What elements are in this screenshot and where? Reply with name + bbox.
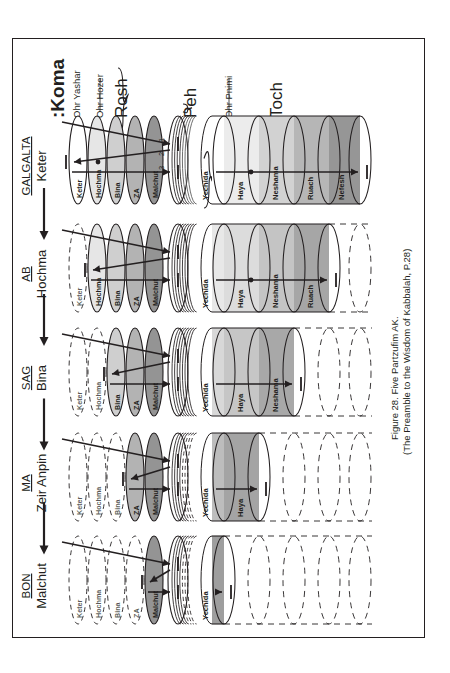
toch-partition-empty — [318, 328, 340, 416]
caption-group: Figure 28. Five Partzufim AK.(The Preamb… — [389, 249, 412, 455]
toch-group: YechidaHayaNeshamaRuachNefesh — [201, 116, 371, 204]
figure-canvas: :KomaOhr YasharOhr HozerRoshPehOhr Pnimi… — [0, 0, 450, 673]
toch-band-yechida — [212, 224, 224, 312]
rosh-label-malchut: Malchut — [151, 278, 160, 306]
rosh-label-bina: Bina — [113, 498, 122, 515]
rosh-label-bina: Bina — [113, 601, 122, 618]
caption-line-2: (The Preamble to the Wisdom of Kabbalah,… — [401, 249, 412, 455]
toch-label-yechida: Yechida — [201, 279, 210, 308]
toch-label-haya: Haya — [236, 289, 245, 308]
toch-label-neshama: Neshama — [271, 377, 280, 412]
flow-arrow-head-0 — [40, 231, 49, 240]
rosh-label-hochma: Hochma — [94, 277, 103, 306]
toch-partition-empty — [283, 536, 305, 624]
toch-label-yechida: Yechida — [201, 383, 210, 412]
toch-label-yechida: Yechida — [201, 488, 210, 517]
flow-arrow-head-3 — [40, 546, 49, 555]
rosh-label-keter: Keter — [75, 496, 84, 515]
label-peh: Peh — [181, 88, 200, 118]
partzufim-diagram: :KomaOhr YasharOhr HozerRoshPehOhr Pnimi… — [0, 0, 450, 673]
toch-partition-empty — [349, 536, 371, 624]
rosh-label-malchut: Malchut — [151, 590, 160, 618]
rosh-label-malchut: Malchut — [151, 170, 160, 198]
toch-partition-empty — [318, 536, 340, 624]
toch-label-nefesh: Nefesh — [337, 174, 346, 200]
toch-band-yechida — [212, 116, 224, 204]
toch-label-haya: Haya — [236, 498, 245, 517]
rosh-label-hochma: Hochma — [94, 589, 103, 618]
label-rosh: Rosh — [112, 78, 131, 118]
flow-arrow-head-1 — [40, 337, 49, 346]
toch-band-yechida — [212, 433, 224, 521]
partzuf-code-galgalta: GALGALTA — [20, 136, 32, 195]
partzuf-row-sag: KeterHochmaBinaZAMalchutYechidaHayaNesha… — [62, 328, 372, 416]
toch-partition-empty — [283, 433, 305, 521]
rosh-label-za: ZA — [132, 608, 141, 618]
label-ohr-yashar: Ohr Yashar — [71, 70, 82, 118]
partzuf-code-bon: BON — [20, 574, 32, 599]
ohr-pnimi-node — [249, 170, 254, 175]
toch-partition-empty — [248, 536, 270, 624]
peh-group — [168, 536, 197, 624]
rosh-label-keter: Keter — [75, 287, 84, 306]
toch-partition-empty — [349, 328, 371, 416]
rosh-label-za: ZA — [132, 296, 141, 306]
toch-label-haya: Haya — [236, 393, 245, 412]
toch-label-neshama: Neshama — [271, 273, 280, 308]
arrow-number-3: 3 — [157, 166, 166, 170]
label-toch: Toch — [267, 82, 286, 118]
rosh-label-za: ZA — [132, 505, 141, 515]
toch-label-yechida: Yechida — [201, 171, 210, 200]
rosh-label-hochma: Hochma — [94, 381, 103, 410]
toch-label-yechida: Yechida — [201, 591, 210, 620]
partzuf-code-ma: MA — [20, 474, 32, 492]
peh-line-6 — [188, 536, 197, 624]
toch-partition-empty — [349, 433, 371, 521]
label-koma: :Koma — [47, 58, 68, 118]
toch-group: YechidaHayaNeshama — [201, 328, 372, 416]
toch-label-ruach: Ruach — [306, 176, 315, 200]
label-ohr-hozer: Ohr Hozer — [94, 74, 105, 118]
peh-group — [168, 328, 197, 416]
ohr-pnimi-node — [249, 278, 254, 283]
toch-band-yechida — [212, 536, 224, 624]
partzuf-name-ab: Hochma — [34, 249, 49, 298]
toch-partition-empty — [349, 224, 371, 312]
rosh-label-hochma: Hochma — [94, 486, 103, 515]
toch-label-neshama: Neshama — [271, 165, 280, 200]
rosh-label-hochma: Hochma — [94, 169, 103, 198]
peh-line-6 — [188, 328, 197, 416]
rosh-label-za: ZA — [132, 188, 141, 198]
partzuf-name-bon: Malchut — [34, 563, 49, 609]
flow-arrow-head-2 — [40, 442, 49, 451]
partzuf-row-ab: KeterHochmaBinaZAMalchutYechidaHayaNesha… — [62, 224, 372, 312]
arrow-number-2: 2 — [157, 152, 166, 156]
rosh-label-keter: Keter — [75, 179, 84, 198]
toch-group: YechidaHaya — [201, 433, 372, 521]
partzuf-code-ab: AB — [20, 266, 32, 282]
arrow-number-1: 1 — [157, 138, 166, 142]
partzuf-name-galgalta: Keter — [34, 150, 49, 182]
peh-group — [168, 116, 197, 204]
toch-label-ruach: Ruach — [306, 284, 315, 308]
partzuf-name-sag: Bina — [34, 364, 49, 391]
rosh-label-malchut: Malchut — [151, 382, 160, 410]
toch-band-yechida — [212, 328, 224, 416]
rosh-label-bina: Bina — [113, 393, 122, 410]
peh-line-6 — [188, 433, 197, 521]
partzuf-row-bon: KeterHochmaBinaZAMalchutYechida — [62, 536, 372, 624]
toch-partition-empty — [318, 433, 340, 521]
peh-group — [168, 433, 197, 521]
toch-label-haya: Haya — [236, 181, 245, 200]
peh-line-6 — [188, 224, 197, 312]
peh-line-6 — [188, 116, 197, 204]
partzuf-name-column: GALGALTAKeterABHochmaSAGBinaMAZeir Anpin… — [20, 136, 49, 609]
caption-line-1: Figure 28. Five Partzufim AK. — [389, 316, 400, 440]
rosh-label-keter: Keter — [75, 391, 84, 410]
ohr-hozer-node — [96, 160, 101, 165]
toch-group: YechidaHayaNeshamaRuach — [201, 224, 372, 312]
partzuf-row-galgalta: KeterHochmaBinaZAMalchutYechidaHayaNesha… — [62, 116, 371, 204]
rosh-label-za: ZA — [132, 400, 141, 410]
partzuf-code-sag: SAG — [20, 366, 32, 390]
rosh-label-keter: Keter — [75, 599, 84, 618]
